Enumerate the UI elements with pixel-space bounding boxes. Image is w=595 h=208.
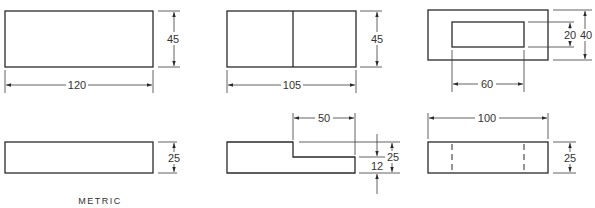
drawing-bottom-left: 25 xyxy=(5,142,181,173)
dim-inner-width: 60 xyxy=(481,78,493,90)
drawing-bottom-middle: 50 12 25 xyxy=(227,112,400,194)
dim-total-height: 25 xyxy=(387,151,399,163)
drawing-top-left: 45 120 xyxy=(5,11,180,93)
outline xyxy=(227,11,356,67)
drawing-top-middle: 45 105 xyxy=(227,11,384,93)
dim-step-width: 50 xyxy=(318,112,330,124)
dim-width: 105 xyxy=(283,79,301,91)
dim-height: 45 xyxy=(167,33,179,45)
outline xyxy=(5,142,153,173)
dim-outer-height: 40 xyxy=(580,29,592,41)
drawing-top-right: 20 40 60 xyxy=(428,10,594,92)
dim-inner-height: 20 xyxy=(564,29,576,41)
dim-height: 45 xyxy=(371,33,383,45)
dim-height: 25 xyxy=(168,152,180,164)
units-note: METRIC xyxy=(78,196,122,206)
dim-width: 100 xyxy=(478,112,496,124)
stepped-outline xyxy=(227,142,355,173)
inner-outline xyxy=(452,22,524,47)
outline xyxy=(428,142,548,173)
dim-step-height: 12 xyxy=(371,160,383,172)
outer-outline xyxy=(428,10,548,60)
dim-width: 120 xyxy=(68,79,86,91)
outline xyxy=(5,11,153,67)
drawing-bottom-right: 100 25 xyxy=(428,112,578,173)
dim-height: 25 xyxy=(564,152,576,164)
